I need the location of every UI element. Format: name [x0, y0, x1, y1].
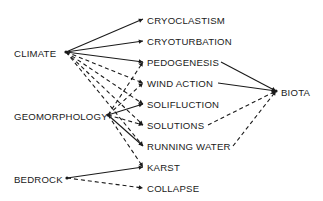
node-climate: CLIMATE — [14, 48, 56, 59]
node-solifluction: SOLIFLUCTION — [147, 99, 219, 110]
node-pedogenesis: PEDOGENESIS — [147, 57, 219, 68]
arrowhead-icon — [139, 185, 143, 189]
diagram-canvas: CLIMATE GEOMORPHOLOGY BEDROCK CRYOCLASTI… — [0, 0, 323, 201]
node-running-water: RUNNING WATER — [147, 141, 231, 152]
edge-geomorphology-pedogenesis — [108, 62, 143, 115]
node-cryoturbation: CRYOTURBATION — [147, 36, 232, 47]
edge-climate-running_water — [66, 52, 143, 146]
node-collapse: COLLAPSE — [147, 183, 199, 194]
node-biota: BIOTA — [281, 87, 310, 98]
arrowhead-icon — [138, 83, 143, 87]
edge-running_water-biota — [233, 91, 276, 146]
node-geomorphology: GEOMORPHOLOGY — [14, 111, 108, 122]
node-karst: KARST — [147, 162, 180, 173]
node-cryoclastism: CRYOCLASTISM — [147, 15, 225, 26]
node-dot-icon — [64, 50, 67, 53]
edge-bedrock-karst — [67, 167, 143, 178]
node-bedrock: BEDROCK — [14, 174, 63, 185]
edge-pedogenesis-biota — [221, 62, 276, 91]
node-dot-icon — [274, 89, 277, 92]
edge-climate-pedogenesis — [66, 52, 143, 62]
edge-bedrock-collapse — [67, 178, 143, 188]
node-wind-action: WIND ACTION — [147, 78, 213, 89]
node-dot-icon — [65, 176, 68, 179]
edge-geomorphology-wind_action — [108, 83, 143, 115]
node-solutions: SOLUTIONS — [147, 120, 204, 131]
